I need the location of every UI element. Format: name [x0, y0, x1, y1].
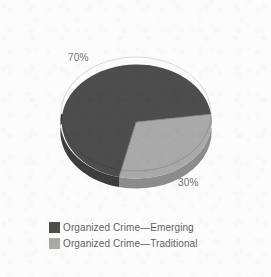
chart-legend: Organized Crime—Emerging Organized Crime… — [49, 220, 198, 252]
legend-swatch-emerging — [49, 222, 60, 233]
legend-item-traditional: Organized Crime—Traditional — [49, 236, 198, 251]
chart-plot-area: 70% 30% — [0, 0, 271, 210]
pie-chart-figure: 70% 30% Organized Crime—Emerging Organiz… — [0, 0, 271, 277]
legend-label-traditional: Organized Crime—Traditional — [63, 238, 198, 249]
pie-chart-graphic — [0, 0, 271, 210]
legend-swatch-traditional — [49, 238, 60, 249]
legend-label-emerging: Organized Crime—Emerging — [63, 222, 194, 233]
legend-item-emerging: Organized Crime—Emerging — [49, 220, 198, 235]
data-label-emerging: 70% — [68, 52, 89, 63]
data-label-traditional: 30% — [178, 177, 199, 188]
